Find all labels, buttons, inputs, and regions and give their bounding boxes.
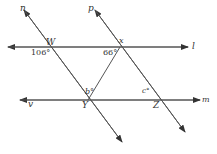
label-line-v: v <box>28 100 33 109</box>
label-point-x: x <box>119 37 124 45</box>
line-p-down <box>95 10 185 132</box>
label-point-y: Y <box>82 101 88 110</box>
angle-x: 66° <box>103 49 117 57</box>
angle-z: c° <box>142 88 149 95</box>
label-line-l: l <box>192 42 195 51</box>
label-point-w: W <box>46 38 55 47</box>
angle-y: b° <box>85 88 94 96</box>
line-n-down <box>24 10 122 142</box>
angle-w: 106° <box>31 49 50 57</box>
label-line-m: m <box>202 96 210 104</box>
label-point-z: Z <box>153 101 159 110</box>
label-line-n: n <box>20 4 26 13</box>
diagram-lines <box>0 0 217 154</box>
geometry-diagram: n p l m v W x Y Z 106° 66° b° c° <box>0 0 217 154</box>
label-line-p: p <box>88 4 94 13</box>
